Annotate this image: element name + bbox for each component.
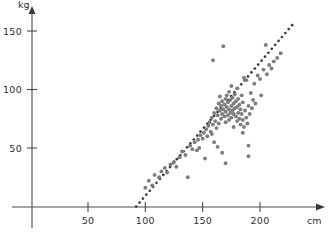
scatter-series [143,43,282,190]
data-point [244,116,248,120]
plot-canvas: 5010015020050100150 [0,0,330,239]
data-point [203,157,207,161]
data-point [272,59,276,63]
data-point [252,82,256,86]
x-axis-tick-label: 50 [82,215,95,226]
data-point [224,161,228,165]
data-point [233,92,237,96]
data-point [205,134,209,138]
y-axis-tick-label: 100 [3,84,22,95]
data-point [244,78,248,82]
data-point [241,118,245,122]
data-point [218,95,222,99]
data-point [248,112,252,116]
data-point [240,93,244,97]
data-point [241,131,245,135]
data-point [250,106,254,110]
data-point [247,154,251,158]
data-point [150,183,154,187]
data-point [186,175,190,179]
data-point [159,169,163,173]
x-axis-arrow-icon [316,204,325,211]
data-point [169,162,173,166]
data-point [218,109,222,113]
data-point [214,126,218,130]
data-point [206,124,210,128]
x-axis-tick-label: 100 [136,215,155,226]
data-point [237,117,241,121]
data-point [253,102,257,106]
data-point [198,133,202,137]
data-point [229,84,233,88]
data-point [188,144,192,148]
data-point [265,72,269,76]
data-point [235,86,239,90]
data-point [241,100,245,104]
data-point [267,63,271,67]
data-point [236,97,240,101]
data-point [237,103,241,107]
y-axis-tick-label: 150 [3,26,22,37]
data-point [270,66,274,70]
x-axis-tick-label: 200 [250,215,269,226]
data-point [240,112,244,116]
trendline-dotted [135,24,294,208]
data-point [279,51,283,55]
data-point [232,125,236,129]
data-point [143,186,147,190]
data-point [184,153,188,157]
data-point [174,165,178,169]
data-point [211,123,215,127]
scatter-plot-figure: 5010015020050100150 kg cm [0,0,330,239]
data-point [216,113,220,117]
data-point [210,116,214,120]
data-point [147,179,151,183]
data-point [220,151,224,155]
data-point [193,140,197,144]
data-point [178,155,182,159]
data-point [216,145,220,149]
data-point [221,44,225,48]
data-point [259,93,263,97]
data-point [243,109,247,113]
data-point [201,137,205,141]
y-axis-unit-label: kg [18,0,30,10]
data-point [239,123,243,127]
data-point [224,120,228,124]
data-point [210,132,214,136]
data-point [197,146,201,150]
data-point [214,106,218,110]
data-point [224,97,228,101]
data-point [204,127,208,131]
data-point [213,119,217,123]
data-point [234,114,238,118]
data-point [202,131,206,135]
data-point [223,114,227,118]
y-axis-tick-label: 50 [9,143,22,154]
data-point [249,91,253,95]
data-point [163,166,167,170]
data-point [261,68,265,72]
data-point [256,74,260,78]
data-point [227,90,231,94]
data-point [212,111,216,115]
data-point [275,56,279,60]
data-point [264,43,268,47]
data-point [227,107,231,111]
data-point [196,138,200,142]
data-point [229,116,233,120]
data-point [239,107,243,111]
data-point [231,96,235,100]
data-point [190,147,194,151]
data-point [212,140,216,144]
x-axis-unit-label: cm [307,215,321,226]
data-point [247,104,251,108]
data-point [251,98,255,102]
data-point [258,77,262,81]
data-point [165,171,169,175]
data-point [180,150,184,154]
data-point [219,117,223,121]
data-point [245,121,249,125]
data-point [242,125,246,129]
data-point [153,173,157,177]
